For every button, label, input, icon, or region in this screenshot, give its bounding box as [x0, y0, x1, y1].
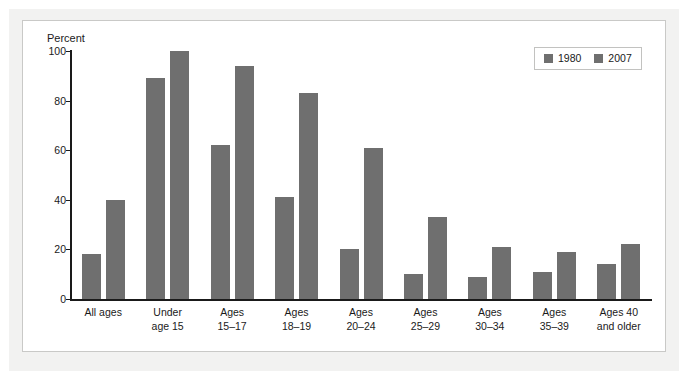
- bar-2007-ages-35–39[interactable]: [557, 252, 576, 299]
- bar-group: [340, 51, 383, 299]
- bar-1980-ages-35–39[interactable]: [533, 272, 552, 299]
- bar-2007-ages-15–17[interactable]: [235, 66, 254, 299]
- y-tick-label: 60: [54, 144, 66, 156]
- x-axis-line: [70, 299, 652, 301]
- bar-2007-ages-18–19[interactable]: [299, 93, 318, 299]
- y-tick-label: 100: [48, 45, 66, 57]
- bar-group: [275, 51, 318, 299]
- bar-1980-ages-20–24[interactable]: [340, 249, 359, 299]
- bar-1980-ages-15–17[interactable]: [211, 145, 230, 299]
- bar-group: [211, 51, 254, 299]
- legend-swatch-2007: [594, 54, 603, 63]
- bar-2007-ages-30–34[interactable]: [492, 247, 511, 299]
- legend-label-2007: 2007: [608, 52, 631, 64]
- bar-group: [82, 51, 125, 299]
- bar-group: [597, 51, 640, 299]
- bar-2007-ages-40-and-older[interactable]: [621, 244, 640, 299]
- bar-group: [404, 51, 447, 299]
- bar-chart: Percent 020406080100 1980 2007 All agesU…: [23, 21, 667, 353]
- bar-2007-under-age-15[interactable]: [170, 51, 189, 299]
- legend-swatch-1980: [544, 54, 553, 63]
- legend-entry-2007: 2007: [594, 52, 631, 64]
- legend-label-1980: 1980: [558, 52, 581, 64]
- x-category-label: Ages 40 and older: [579, 305, 659, 333]
- bar-2007-all-ages[interactable]: [106, 200, 125, 299]
- legend-entry-1980: 1980: [544, 52, 581, 64]
- y-tick-label: 40: [54, 194, 66, 206]
- bar-1980-ages-30–34[interactable]: [468, 277, 487, 299]
- chart-legend: 1980 2007: [534, 47, 642, 70]
- y-tick-label: 80: [54, 95, 66, 107]
- bar-1980-ages-25–29[interactable]: [404, 274, 423, 299]
- y-tick-label: 20: [54, 243, 66, 255]
- bar-group: [146, 51, 189, 299]
- plot-region: [71, 51, 651, 299]
- bar-group: [533, 51, 576, 299]
- figure-frame: Percent 020406080100 1980 2007 All agesU…: [0, 0, 688, 379]
- bar-group: [468, 51, 511, 299]
- bar-1980-ages-40-and-older[interactable]: [597, 264, 616, 299]
- chart-panel: Percent 020406080100 1980 2007 All agesU…: [22, 20, 666, 352]
- bar-2007-ages-25–29[interactable]: [428, 217, 447, 299]
- bar-1980-ages-18–19[interactable]: [275, 197, 294, 299]
- bar-2007-ages-20–24[interactable]: [364, 148, 383, 299]
- bar-1980-under-age-15[interactable]: [146, 78, 165, 299]
- y-axis-ticks: 020406080100: [23, 21, 66, 353]
- bar-1980-all-ages[interactable]: [82, 254, 101, 299]
